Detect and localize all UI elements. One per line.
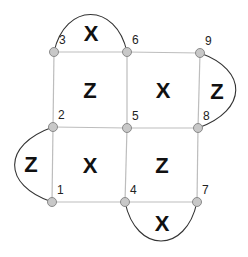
plaquette-label-x: X [84, 21, 99, 46]
qubit-node-2 [49, 123, 58, 132]
qubit-node-4 [121, 198, 130, 207]
qubit-node-8 [194, 124, 203, 133]
qubit-label-5: 5 [132, 109, 139, 123]
plaquette-label-x: X [156, 78, 171, 103]
qubit-node-5 [123, 124, 132, 133]
plaquette-label-z: Z [83, 78, 96, 103]
qubit-label-6: 6 [132, 33, 139, 47]
qubit-nodes: 123456789 [48, 33, 213, 207]
qubit-node-7 [193, 198, 202, 207]
qubit-label-7: 7 [202, 183, 209, 197]
plaquette-label-x: X [83, 153, 98, 178]
plaquette-label-x: X [155, 211, 170, 236]
plaquette-label-z: Z [24, 152, 37, 177]
qubit-label-2: 2 [58, 108, 65, 122]
qubit-node-1 [48, 198, 57, 207]
qubit-label-9: 9 [205, 34, 212, 48]
qubit-node-6 [123, 48, 132, 57]
plaquette-label-z: Z [210, 79, 223, 104]
qubit-label-1: 1 [57, 183, 64, 197]
plaquette-label-z: Z [155, 153, 168, 178]
qubit-label-4: 4 [130, 183, 137, 197]
qubit-label-8: 8 [203, 109, 210, 123]
qubit-node-9 [196, 49, 205, 58]
qubit-node-3 [50, 48, 59, 57]
qubit-label-3: 3 [59, 33, 66, 47]
lattice-diagram: ZXXZXZZX 123456789 [0, 0, 248, 257]
